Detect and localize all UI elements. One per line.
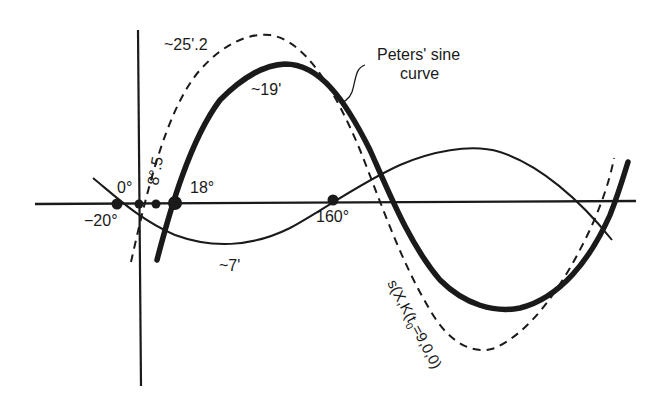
thin-curve — [93, 148, 612, 244]
label-8-5: 8°.5 — [144, 155, 166, 186]
dashed-label-tail: =9,0,0) — [408, 322, 445, 372]
label-minus20: −20° — [84, 212, 118, 229]
dashed-curve-label: s(X,K(t0=9,0,0) — [382, 276, 446, 372]
peters-label-line2: curve — [400, 65, 439, 82]
point-minus20 — [112, 199, 123, 210]
point-160 — [328, 195, 339, 206]
amp-dashed-label: ~25'.2 — [164, 36, 208, 53]
peters-label-line1: Peters' sine — [377, 46, 460, 63]
point-0 — [135, 200, 144, 209]
label-0: 0° — [117, 179, 132, 196]
label-160: 160° — [316, 208, 349, 225]
point-18 — [168, 196, 182, 210]
label-leader-line — [344, 65, 365, 102]
sine-curve-diagram: Peters' sine curve ~25'.2 ~19' ~7' −20° … — [0, 0, 668, 409]
dashed-label-main: s(X,K(t — [384, 276, 421, 325]
point-8-5 — [152, 200, 161, 209]
label-18: 18° — [190, 179, 214, 196]
amp-bold-label: ~19' — [251, 81, 281, 98]
amp-thin-label: ~7' — [219, 257, 240, 274]
svg-text:s(X,K(t0=9,0,0): s(X,K(t0=9,0,0) — [382, 276, 446, 372]
